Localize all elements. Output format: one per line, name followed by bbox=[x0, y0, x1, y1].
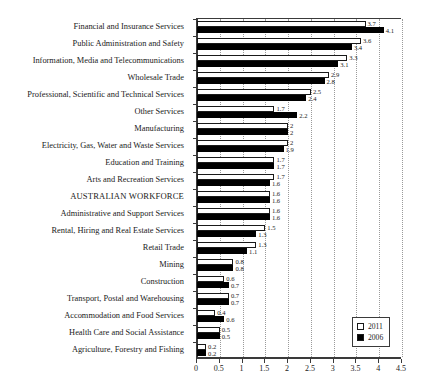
bar-group: 1.71.6 bbox=[197, 172, 401, 189]
bar-2011 bbox=[197, 89, 311, 95]
bar-value-label: 1.3 bbox=[258, 242, 266, 249]
bar-value-label: 1.9 bbox=[286, 147, 294, 154]
x-axis-tick-label: 4 bbox=[376, 365, 380, 373]
category-label: Retail Trade bbox=[143, 243, 184, 252]
category-label: Professional, Scientific and Technical S… bbox=[27, 90, 184, 99]
bar-value-label: 1.3 bbox=[258, 232, 266, 239]
legend-item-2006: 2006 bbox=[357, 332, 383, 343]
bar-value-label: 3.1 bbox=[340, 62, 348, 69]
category-label: Mining bbox=[159, 260, 184, 269]
bar-2006 bbox=[197, 146, 284, 152]
bar-2011 bbox=[197, 38, 361, 44]
bar-group: 3.63.4 bbox=[197, 36, 401, 53]
bar-2011 bbox=[197, 174, 274, 180]
bar-2011 bbox=[197, 293, 229, 299]
bar-2006 bbox=[197, 197, 270, 203]
x-axis-tick bbox=[355, 359, 356, 363]
category-label: Education and Training bbox=[105, 158, 184, 167]
category-label: Other Services bbox=[134, 107, 184, 116]
bar-value-label: 3.6 bbox=[363, 38, 371, 45]
category-label: Health Care and Social Assistance bbox=[69, 328, 184, 337]
bar-2006 bbox=[197, 299, 229, 305]
x-axis-tick-label: 3.5 bbox=[350, 365, 360, 373]
x-axis-tick bbox=[401, 359, 402, 363]
bar-2006 bbox=[197, 61, 338, 67]
x-axis-tick bbox=[378, 359, 379, 363]
bar-2006 bbox=[197, 214, 270, 220]
bar-value-label: 2.2 bbox=[299, 113, 307, 120]
bar-group: 3.74.1 bbox=[197, 19, 401, 36]
bar-2006 bbox=[197, 282, 229, 288]
category-label: Electricity, Gas, Water and Waste Servic… bbox=[42, 141, 184, 150]
bar-2011 bbox=[197, 157, 274, 163]
bar-value-label: 2 bbox=[290, 130, 293, 137]
bar-value-label: 2.8 bbox=[327, 79, 335, 86]
x-axis-tick bbox=[333, 359, 334, 363]
bar-value-label: 0.7 bbox=[231, 283, 239, 290]
bar-group: 2.52.4 bbox=[197, 87, 401, 104]
x-axis-tick-label: 2.5 bbox=[305, 365, 315, 373]
bar-group: 0.60.7 bbox=[197, 274, 401, 291]
bar-chart: Financial and Insurance ServicesPublic A… bbox=[0, 0, 432, 385]
x-axis-tick bbox=[264, 359, 265, 363]
bar-2006 bbox=[197, 129, 288, 135]
category-label: Arts and Recreation Services bbox=[87, 175, 184, 184]
legend-swatch-2011-icon bbox=[357, 323, 364, 330]
x-axis-tick-label: 0.5 bbox=[214, 365, 224, 373]
category-label: Agriculture, Forestry and Fishing bbox=[72, 345, 184, 354]
bar-2011 bbox=[197, 55, 347, 61]
x-axis: 00.511.522.533.544.5 bbox=[196, 358, 401, 361]
bar-group: 1.71.7 bbox=[197, 155, 401, 172]
plot-inner: 3.74.13.63.43.33.12.92.82.52.41.72.22221… bbox=[197, 19, 401, 357]
x-axis-tick-label: 4.5 bbox=[396, 365, 406, 373]
x-axis-tick bbox=[310, 359, 311, 363]
category-label: AUSTRALIAN WORKFORCE bbox=[70, 192, 184, 201]
bar-2006 bbox=[197, 163, 274, 169]
bar-value-label: 1.6 bbox=[272, 215, 280, 222]
bar-2011 bbox=[197, 140, 288, 146]
bar-value-label: 1.6 bbox=[272, 181, 280, 188]
bar-2006 bbox=[197, 265, 233, 271]
bar-group: 1.61.6 bbox=[197, 206, 401, 223]
x-axis-tick-label: 0 bbox=[194, 365, 198, 373]
gridline bbox=[402, 19, 403, 357]
legend-swatch-2006-icon bbox=[357, 334, 364, 341]
bar-2006 bbox=[197, 27, 384, 33]
legend-item-2011: 2011 bbox=[357, 321, 383, 332]
bar-value-label: 0.5 bbox=[222, 334, 230, 341]
bar-2011 bbox=[197, 208, 270, 214]
x-axis-tick-label: 1 bbox=[240, 365, 244, 373]
category-label: Wholesale Trade bbox=[127, 73, 184, 82]
bar-2006 bbox=[197, 316, 224, 322]
bar-2006 bbox=[197, 333, 220, 339]
bar-value-label: 0.7 bbox=[231, 300, 239, 307]
chart-legend: 2011 2006 bbox=[352, 317, 390, 347]
bar-group: 0.80.8 bbox=[197, 257, 401, 274]
category-label: Rental, Hiring and Real Estate Services bbox=[51, 226, 184, 235]
category-axis-labels: Financial and Insurance ServicesPublic A… bbox=[0, 18, 190, 358]
bar-value-label: 4.1 bbox=[386, 28, 394, 35]
bar-2011 bbox=[197, 21, 366, 27]
category-label: Construction bbox=[141, 277, 184, 286]
legend-label-2011: 2011 bbox=[368, 323, 383, 331]
bar-2011 bbox=[197, 191, 270, 197]
bar-value-label: 0.2 bbox=[208, 351, 216, 358]
bar-value-label: 1.5 bbox=[267, 225, 275, 232]
bar-2006 bbox=[197, 78, 325, 84]
bar-group: 1.31.1 bbox=[197, 240, 401, 257]
bar-2011 bbox=[197, 259, 233, 265]
plot-area: 3.74.13.63.43.33.12.92.82.52.41.72.22221… bbox=[196, 18, 401, 358]
bar-value-label: 1.1 bbox=[249, 249, 257, 256]
legend-label-2006: 2006 bbox=[368, 334, 383, 342]
bar-2011 bbox=[197, 344, 206, 350]
bar-group: 1.72.2 bbox=[197, 104, 401, 121]
x-axis-tick-label: 2 bbox=[285, 365, 289, 373]
category-label: Administrative and Support Services bbox=[60, 209, 184, 218]
bar-2006 bbox=[197, 112, 297, 118]
bar-group: 3.33.1 bbox=[197, 53, 401, 70]
bar-group: 0.70.7 bbox=[197, 291, 401, 308]
bar-value-label: 2.4 bbox=[308, 96, 316, 103]
x-axis-tick bbox=[287, 359, 288, 363]
bar-value-label: 3.4 bbox=[354, 45, 362, 52]
bar-2006 bbox=[197, 180, 270, 186]
